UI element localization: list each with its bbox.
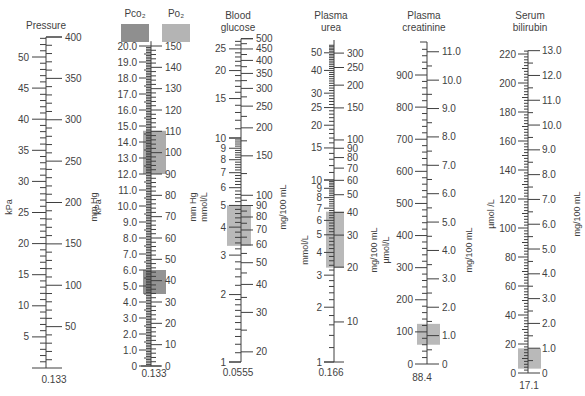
unit-label-mg: mg/100 mL xyxy=(369,227,379,272)
mmol-tick-label: 4 xyxy=(220,222,226,233)
mg-tick-label: 2.0 xyxy=(442,302,456,313)
umol-tick-label: 180 xyxy=(499,107,516,118)
pco2-kpa-tick-label: 19.0 xyxy=(118,57,138,68)
po2-mmhg-tick-label: 80 xyxy=(165,190,177,201)
mmol-tick-label: 5 xyxy=(316,229,322,240)
mg-tick-label: 0 xyxy=(442,359,448,370)
po2-mmhg-tick-label: 140 xyxy=(165,62,182,73)
mmhg-tick-label: 250 xyxy=(65,156,82,167)
mmol-tick-label: 2 xyxy=(316,302,322,313)
po2-mmhg-tick-label: 90 xyxy=(165,169,177,180)
umol-tick-label: 300 xyxy=(396,262,413,273)
mg-tick-label: 7.0 xyxy=(442,160,456,171)
kpa-tick-label: 15 xyxy=(18,269,30,280)
mg-tick-label: 11.0 xyxy=(442,46,461,57)
mmol-tick-label: 10 xyxy=(311,175,323,186)
mg-tick-label: 2.0 xyxy=(542,318,556,329)
scale-blood-glucose: 1234567891015202520304050607080901001502… xyxy=(199,10,288,378)
umol-tick-label: 100 xyxy=(499,223,516,234)
po2-mmhg-tick-label: 150 xyxy=(165,41,182,52)
kpa-tick-label: 35 xyxy=(18,145,30,156)
mg-tick-label: 3.0 xyxy=(542,293,556,304)
mg-tick-label: 150 xyxy=(347,102,364,113)
pco2-kpa-tick-label: 2.0 xyxy=(123,329,137,340)
mg-tick-label: 30 xyxy=(347,230,359,241)
kpa-tick-label: 50 xyxy=(18,52,30,63)
scale-title: Plasma xyxy=(407,10,441,21)
mg-tick-label: 250 xyxy=(347,62,364,73)
mmol-tick-label: 6 xyxy=(316,215,322,226)
conversion-factor: 88.4 xyxy=(412,372,432,383)
mg-tick-label: 7.0 xyxy=(542,194,556,205)
mg-tick-label: 60 xyxy=(256,239,268,250)
po2-mmhg-tick-label: 110 xyxy=(165,126,181,137)
po2-mmhg-tick-label: 50 xyxy=(165,254,177,265)
scale-plasma-creatinine: 010020030040050060070080090001.02.03.04.… xyxy=(381,10,474,383)
mg-tick-label: 12.0 xyxy=(542,70,562,81)
mg-tick-label: 350 xyxy=(256,68,273,79)
mmol-tick-label: 5 xyxy=(220,200,226,211)
mmhg-tick-label: 400 xyxy=(65,32,82,43)
mg-tick-label: 10.0 xyxy=(442,75,462,86)
pco2-kpa-tick-label: 6.0 xyxy=(123,265,137,276)
mg-tick-label: 5.0 xyxy=(542,244,556,255)
umol-tick-label: 500 xyxy=(396,198,413,209)
mg-tick-label: 3.0 xyxy=(442,273,456,284)
umol-tick-label: 140 xyxy=(499,165,516,176)
scale-plasma-urea: 1234567891015202530405010203040506070809… xyxy=(300,10,379,378)
po2-mmhg-tick-label: 40 xyxy=(165,275,177,286)
mmol-tick-label: 40 xyxy=(311,65,323,76)
umol-tick-label: 800 xyxy=(396,102,413,113)
mg-tick-label: 20 xyxy=(347,262,359,273)
unit-label-mg: mg/100 mL xyxy=(278,184,288,229)
umol-tick-label: 200 xyxy=(499,78,516,89)
umol-tick-label: 160 xyxy=(499,136,516,147)
creatinine-normal-range xyxy=(417,324,440,345)
conversion-factor: 0.0555 xyxy=(223,367,254,378)
umol-tick-label: 700 xyxy=(396,134,413,145)
mg-tick-label: 13.0 xyxy=(542,45,562,56)
umol-tick-label: 200 xyxy=(396,294,413,305)
unit-label-mg: mg/100 mL xyxy=(464,227,474,272)
mmol-tick-label: 7 xyxy=(220,167,226,178)
pco2-kpa-tick-label: 1.0 xyxy=(123,345,137,356)
kpa-tick-label: 45 xyxy=(18,83,30,94)
umol-tick-label: 100 xyxy=(396,326,413,337)
mg-tick-label: 60 xyxy=(347,175,359,186)
mmol-tick-label: 3 xyxy=(220,250,226,261)
pco2-legend-label: Pco₂ xyxy=(124,8,145,19)
unit-label-umol: µmol/L xyxy=(381,236,391,263)
mg-tick-label: 6.0 xyxy=(542,219,556,230)
kpa-tick-label: 20 xyxy=(18,238,30,249)
umol-tick-label: 220 xyxy=(499,49,516,60)
mg-tick-label: 200 xyxy=(347,80,364,91)
mmol-tick-label: 3 xyxy=(316,270,322,281)
mg-tick-label: 9.0 xyxy=(542,144,556,155)
umol-tick-label: 40 xyxy=(505,310,517,321)
mg-tick-label: 40 xyxy=(256,279,268,290)
scale-title: urea xyxy=(321,22,341,33)
mg-tick-label: 6.0 xyxy=(442,188,456,199)
unit-label-kpa: kPa xyxy=(93,199,103,215)
po2-mmhg-tick-label: 130 xyxy=(165,83,182,94)
mmol-tick-label: 10 xyxy=(215,133,227,144)
po2-mmhg-tick-label: 30 xyxy=(165,297,177,308)
mg-tick-label: 11.0 xyxy=(542,95,561,106)
mmol-tick-label: 1 xyxy=(316,357,322,368)
mmol-tick-label: 30 xyxy=(311,88,323,99)
mg-tick-label: 150 xyxy=(256,150,273,161)
pco2-kpa-tick-label: 0 xyxy=(131,361,137,372)
mg-tick-label: 0 xyxy=(542,368,548,379)
unit-label-umol: µmol /L xyxy=(486,199,496,229)
bilirubin-normal-range xyxy=(518,348,541,368)
mg-tick-label: 400 xyxy=(256,55,273,66)
pco2-kpa-tick-label: 12.0 xyxy=(118,169,138,180)
mg-tick-label: 40 xyxy=(347,207,359,218)
mg-tick-label: 20 xyxy=(256,346,268,357)
conversion-factor: 0.133 xyxy=(41,374,66,385)
umol-tick-label: 400 xyxy=(396,230,413,241)
mmhg-tick-label: 100 xyxy=(65,280,82,291)
pco2-kpa-tick-label: 20.0 xyxy=(118,41,138,52)
pco2-kpa-tick-label: 9.0 xyxy=(123,217,137,228)
mmhg-tick-label: 300 xyxy=(65,114,82,125)
